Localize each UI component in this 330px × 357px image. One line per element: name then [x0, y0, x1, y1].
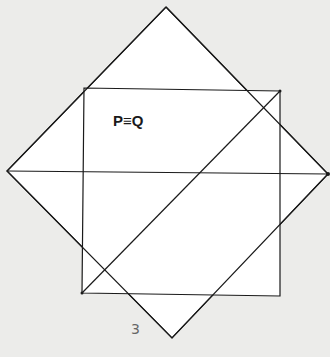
vertex-dot: [326, 172, 330, 176]
figure-number: 3: [131, 321, 140, 337]
vertex-dot: [81, 292, 84, 295]
vertex-dot: [279, 90, 282, 93]
label-p-equiv-q: P≡Q: [113, 112, 143, 129]
geometry-diagram: [0, 0, 330, 357]
